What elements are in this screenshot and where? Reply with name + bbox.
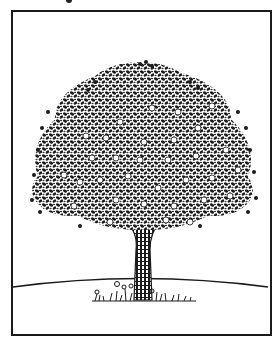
tree-illustration (0, 0, 277, 339)
